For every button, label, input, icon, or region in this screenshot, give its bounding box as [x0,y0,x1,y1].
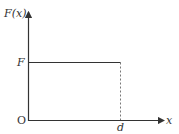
y-tick-F: F [16,56,25,69]
y-axis-label: F(x) [3,7,26,20]
force-displacement-chart: F(x) F O d x [0,0,179,134]
origin-label: O [17,114,26,127]
x-axis-label: x [166,114,173,127]
x-tick-d: d [117,121,124,134]
